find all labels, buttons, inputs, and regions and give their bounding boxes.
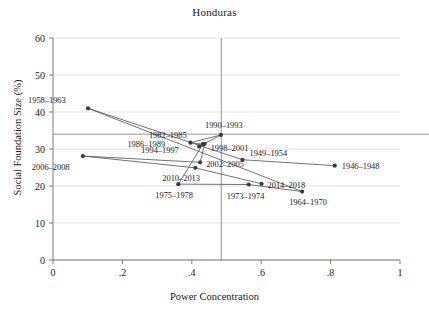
y-axis-tick-label: 0 bbox=[40, 255, 45, 266]
data-point-marker[interactable] bbox=[193, 166, 197, 170]
plot-area: 01020304050600.2.4.6.81 1946–19481949–19… bbox=[0, 0, 429, 312]
data-point-label: 1973–1974 bbox=[227, 192, 266, 201]
x-axis-tick-label: .4 bbox=[188, 267, 196, 278]
data-point-label: 1958–1963 bbox=[28, 96, 66, 105]
data-point-marker[interactable] bbox=[203, 142, 207, 146]
data-point-label: 2002–2005 bbox=[206, 160, 244, 169]
data-point-marker[interactable] bbox=[219, 133, 223, 137]
y-axis-tick-label: 10 bbox=[35, 218, 45, 229]
y-axis-tick-label: 40 bbox=[35, 107, 45, 118]
y-axis-tick-label: 60 bbox=[35, 33, 45, 44]
data-point-marker[interactable] bbox=[197, 144, 201, 148]
data-point-marker[interactable] bbox=[247, 182, 251, 186]
axis-tick-labels: 01020304050600.2.4.6.81 bbox=[35, 33, 403, 279]
data-point-marker[interactable] bbox=[300, 189, 304, 193]
x-axis-tick-label: .8 bbox=[327, 267, 335, 278]
data-point-label: 1949–1954 bbox=[249, 149, 288, 158]
data-point-marker[interactable] bbox=[81, 154, 85, 158]
data-point-label: 1975–1978 bbox=[155, 191, 193, 200]
data-point-marker[interactable] bbox=[198, 160, 202, 164]
data-point-marker[interactable] bbox=[333, 164, 337, 168]
data-point-label: 1990–1993 bbox=[205, 121, 243, 130]
data-point-label: 2010–2013 bbox=[162, 174, 200, 183]
x-axis-tick-label: 0 bbox=[51, 267, 56, 278]
data-point-marker[interactable] bbox=[86, 106, 90, 110]
data-point-label: 1994–1997 bbox=[141, 146, 179, 155]
y-axis-tick-label: 50 bbox=[35, 70, 45, 81]
x-axis-tick-label: 1 bbox=[398, 267, 403, 278]
data-point-label: 1998–2001 bbox=[211, 144, 249, 153]
data-point-label: 1964–1970 bbox=[289, 198, 327, 207]
x-axis-tick-label: .2 bbox=[119, 267, 127, 278]
data-point-marker[interactable] bbox=[188, 141, 192, 145]
data-point-label: 1946–1948 bbox=[342, 162, 380, 171]
data-point-marker[interactable] bbox=[259, 182, 263, 186]
data-point-label: 2014–2018 bbox=[268, 181, 306, 190]
data-point-label: 2006–2008 bbox=[32, 163, 70, 172]
y-axis-tick-label: 30 bbox=[35, 144, 45, 155]
chart-figure: Honduras Social Foundation Size (%) Powe… bbox=[0, 0, 429, 312]
y-axis-tick-label: 20 bbox=[35, 181, 45, 192]
x-axis-tick-label: .6 bbox=[257, 267, 265, 278]
data-point-labels: 1946–19481949–19541958–19631964–19701973… bbox=[28, 96, 379, 206]
